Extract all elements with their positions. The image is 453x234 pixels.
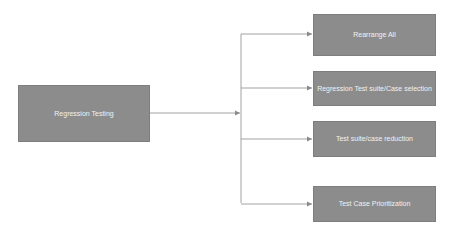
node-label: Test Case Prioritization <box>339 200 411 208</box>
node-rearrange-all: Rearrange All <box>313 14 436 56</box>
node-label: Test suite/case reduction <box>336 135 413 143</box>
node-regression-testing: Regression Testing <box>18 85 150 142</box>
node-test-reduction: Test suite/case reduction <box>313 121 436 157</box>
node-label: Rearrange All <box>353 31 395 39</box>
diagram-canvas: Regression Testing Rearrange All Regress… <box>0 0 453 234</box>
node-label: Regression Testing <box>54 110 113 118</box>
node-test-selection: Regression Test suite/Case selection <box>313 71 436 106</box>
node-test-prioritization: Test Case Prioritization <box>313 186 436 222</box>
node-label: Regression Test suite/Case selection <box>317 85 432 93</box>
